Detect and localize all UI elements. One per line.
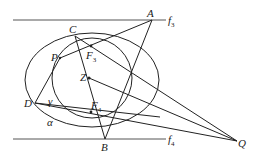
label-f3-sub: 3 [171,21,175,29]
label-C: C [69,24,76,35]
label-P: P [51,52,58,63]
segment-D-Q [35,103,237,141]
segment-A-B [105,20,152,139]
label-Z: Z [80,72,86,83]
label-A: A [147,8,154,19]
label-f4: f4 [168,134,175,148]
segment-Z-Q [89,78,237,141]
label-f4-sub: 4 [171,140,175,148]
segment-C-Q [75,36,237,141]
label-F4-text: F [91,99,98,111]
geometry-diagram: A f3 C F3 P Z D γ F4 α B f4 Q [0,0,256,160]
point-P [59,57,61,59]
label-B: B [101,142,108,153]
label-Q: Q [238,138,246,149]
label-F3-sub: 3 [93,56,97,64]
label-F4: F4 [91,100,101,114]
label-f3: f3 [168,15,175,29]
label-D: D [24,98,32,109]
diagram-canvas [0,0,256,160]
label-F4-sub: 4 [98,106,102,114]
label-gamma: γ [48,96,52,107]
label-F3-text: F [86,49,93,61]
label-alpha: α [47,117,53,128]
label-F3: F3 [86,50,96,64]
point-F3 [90,45,93,48]
point-Z [87,76,90,79]
